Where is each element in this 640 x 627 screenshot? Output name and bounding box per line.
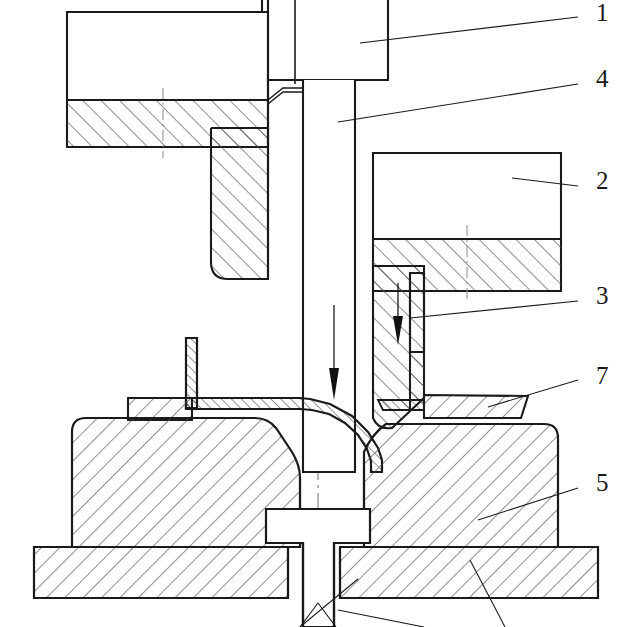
technical-drawing-svg — [0, 0, 640, 627]
callout-label-7: 7 — [596, 363, 609, 388]
left-blank-holder-leg — [211, 128, 268, 279]
leader-7 — [488, 380, 578, 407]
die-insert-ring-left — [128, 398, 192, 420]
callout-label-1: 1 — [596, 0, 609, 25]
callout-label-2: 2 — [596, 168, 609, 193]
base-plate-right — [340, 547, 598, 598]
upper-punch-holder — [262, 0, 388, 80]
leader-1 — [360, 17, 578, 43]
leader-3 — [410, 301, 578, 318]
leader-4 — [338, 84, 578, 122]
drawing-canvas: 1 4 2 3 7 5 — [0, 0, 640, 627]
die-insert-ring — [424, 395, 528, 418]
lower-die-block-right — [364, 424, 558, 547]
base-plate-left — [34, 547, 288, 598]
callout-label-4: 4 — [596, 66, 609, 91]
callout-label-3: 3 — [596, 283, 609, 308]
leader-6a — [338, 610, 424, 627]
callout-label-5: 5 — [596, 470, 609, 495]
